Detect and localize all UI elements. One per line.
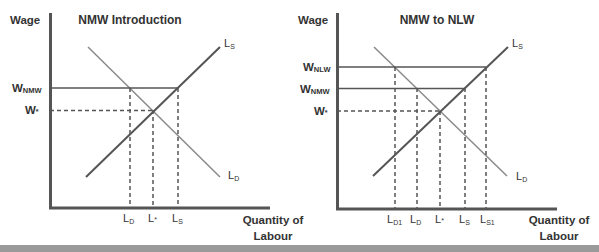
wage-label-nmw: WNMW: [12, 82, 43, 95]
quantity-label-ld: LD: [410, 213, 421, 226]
diagram-nmw-introduction: NMW Introduction Wage LS LD WNMW W* LD L…: [10, 13, 304, 242]
quantity-label-ls1: LS1: [480, 213, 495, 226]
demand-curve-label: LD: [228, 169, 239, 182]
diagram-title: NMW to NLW: [400, 13, 475, 27]
diagram-nmw-to-nlw: NMW to NLW Wage LS LD WNLW WNMW W* LD1 L…: [298, 13, 590, 242]
x-axis-label: Quantity of: [243, 214, 304, 226]
quantity-label-ls: LS: [172, 212, 183, 225]
quantity-label-ld1: LD1: [387, 213, 402, 226]
wage-label-equilibrium: W*: [314, 105, 328, 117]
y-axis-label: Wage: [10, 14, 40, 26]
supply-curve-label: LS: [224, 37, 235, 50]
bottom-divider-bar: [0, 245, 599, 252]
quantity-label-lstar: L*: [148, 212, 157, 224]
wage-label-nlw: WNLW: [303, 61, 331, 74]
wage-label-equilibrium: W*: [25, 104, 39, 116]
x-axis-label-line2: Labour: [254, 230, 293, 242]
quantity-label-ld: LD: [123, 212, 134, 225]
supply-curve-label: LS: [512, 37, 523, 50]
demand-curve-label: LD: [516, 170, 527, 183]
x-axis-label: Quantity of: [529, 214, 590, 226]
labour-market-diagrams: NMW Introduction Wage LS LD WNMW W* LD L…: [0, 0, 599, 252]
y-axis-label: Wage: [298, 14, 328, 26]
quantity-label-lstar: L*: [435, 213, 444, 225]
quantity-label-ls: LS: [459, 213, 470, 226]
x-axis-label-line2: Labour: [540, 230, 579, 242]
diagram-title: NMW Introduction: [78, 13, 181, 27]
wage-label-nmw: WNMW: [300, 83, 331, 96]
